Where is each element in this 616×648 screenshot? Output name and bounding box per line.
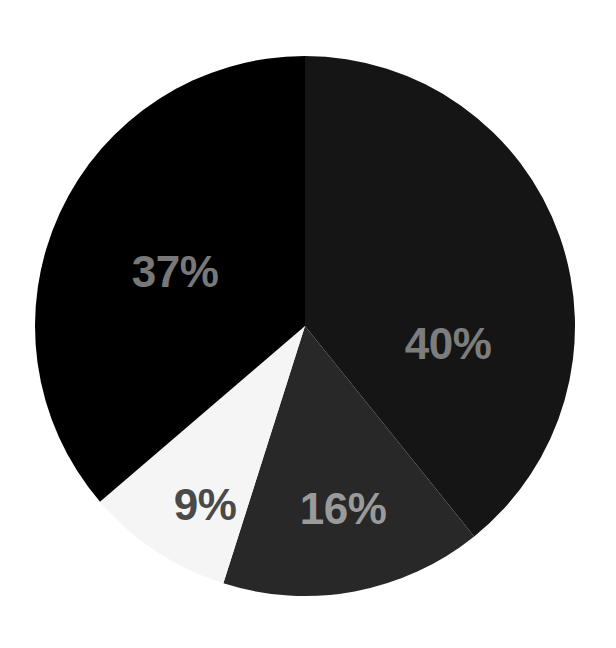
pie-chart-container: 40% 37% 16% 9% xyxy=(0,0,616,648)
pie-chart-svg xyxy=(0,0,616,648)
pie-slice-label-40: 40% xyxy=(405,322,492,366)
pie-slice-label-37: 37% xyxy=(132,250,219,294)
pie-slice-label-16: 16% xyxy=(300,487,387,531)
pie-slice-label-9: 9% xyxy=(174,483,237,527)
